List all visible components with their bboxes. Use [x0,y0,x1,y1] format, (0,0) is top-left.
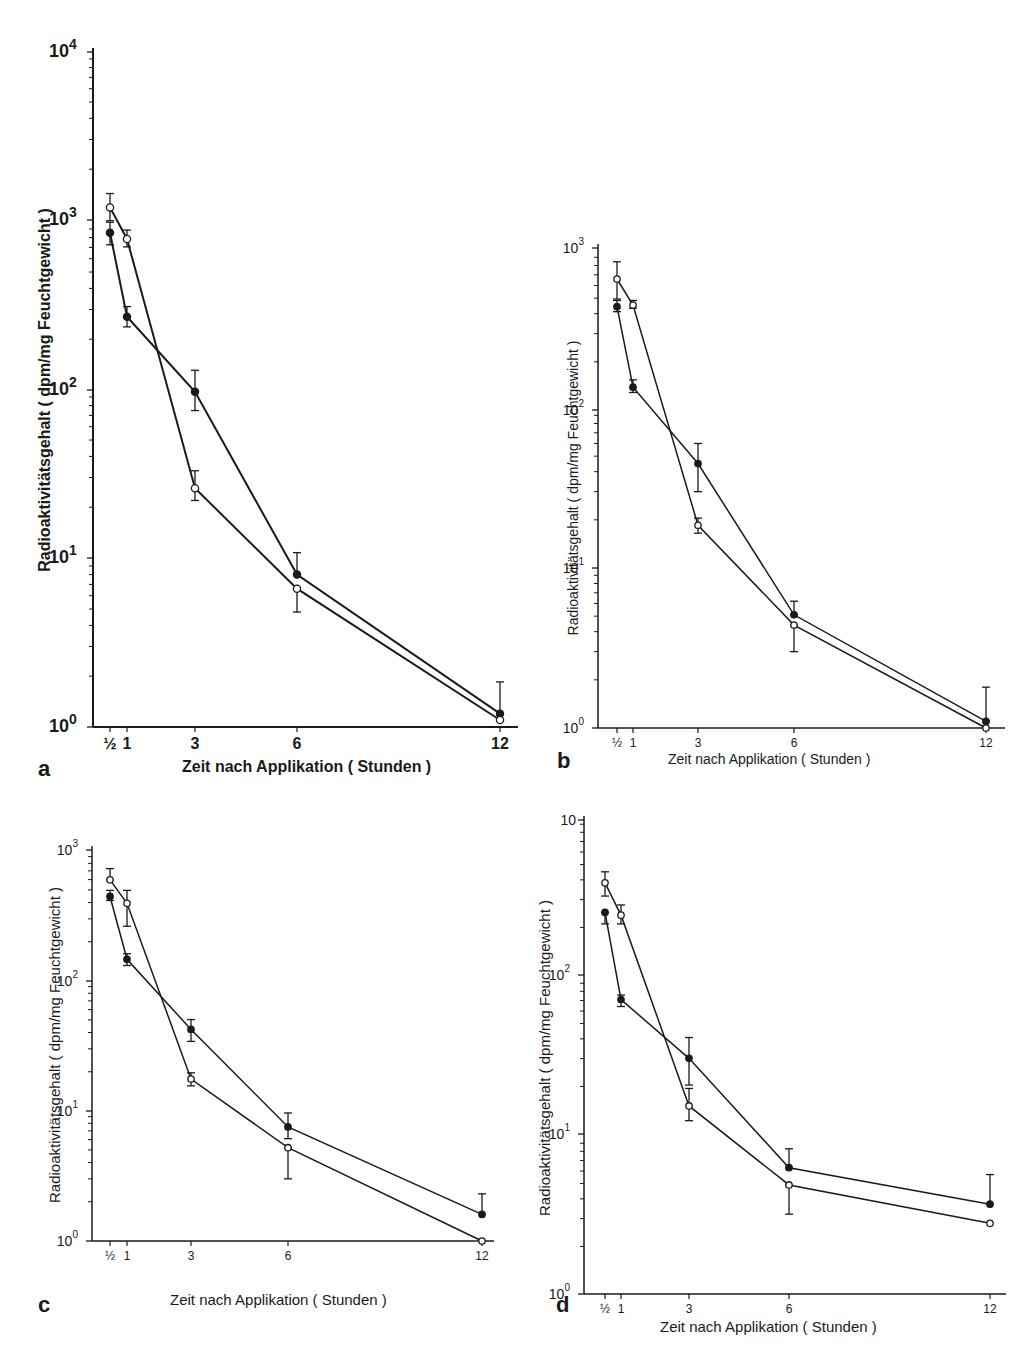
x-tick-label: 12 [979,736,993,750]
x-tick-label: 12 [983,1302,997,1316]
filled-circle-marker [188,1026,194,1032]
open-circle-marker [614,276,620,282]
y-tick-label: 103 [57,838,79,858]
x-tick-label: 6 [791,736,798,750]
filled-circle-marker [987,1201,993,1207]
open-circle-marker [124,900,130,906]
open-circle-marker [188,1076,194,1082]
y-axis-title: Radioaktivitätsgehalt ( dpm/mg Feuchtgew… [46,887,63,1203]
y-tick-label: 10 [560,812,576,828]
y-axis-title: Radioaktivitätsgehalt ( dpm/mg Feuchtgew… [565,341,581,636]
x-tick-label: 12 [475,1249,489,1263]
open-circle-marker [285,1144,291,1150]
series-line-filled [605,912,990,1204]
open-circle-marker [695,522,701,528]
series-line-open [617,279,986,728]
series-line-open [110,880,482,1241]
filled-circle-marker [285,1124,291,1130]
open-circle-marker [293,585,300,592]
open-circle-marker [686,1103,692,1109]
panel-letter-c: c [38,1292,50,1318]
y-tick-label: 100 [57,1229,79,1249]
filled-circle-marker [786,1165,792,1171]
y-tick-label: 100 [563,716,585,736]
x-tick-label: 1 [618,1302,625,1316]
filled-circle-marker [686,1055,692,1061]
panel-b: 100101102103½13612Zeit nach Applikation … [563,236,1005,767]
filled-circle-marker [695,460,701,466]
y-tick-label: 103 [563,236,585,256]
x-tick-label: 12 [491,735,509,752]
filled-circle-marker [479,1211,485,1217]
open-circle-marker [983,725,989,731]
open-circle-marker [987,1220,993,1226]
y-tick-label: 104 [49,36,77,61]
filled-circle-marker [124,956,130,962]
y-tick-label: 100 [49,711,77,736]
filled-circle-marker [602,909,608,915]
open-circle-marker [479,1238,485,1244]
open-circle-marker [630,302,636,308]
filled-circle-marker [293,571,300,578]
y-tick-label: 102 [49,374,77,399]
x-tick-label: ½ [600,1302,610,1316]
series-line-filled [110,896,482,1214]
series-line-open [110,207,500,720]
open-circle-marker [496,716,503,723]
panel-c: 100101102103½13612Zeit nach Applikation … [46,838,494,1308]
x-tick-label: ½ [612,736,622,750]
x-tick-label: 3 [191,735,200,752]
x-tick-label: 6 [285,1249,292,1263]
x-tick-label: 3 [686,1302,693,1316]
y-tick-label: 103 [49,204,77,229]
open-circle-marker [106,204,113,211]
filled-circle-marker [106,229,113,236]
panel-d: 10010110210½13612Zeit nach Applikation (… [536,812,1006,1335]
filled-circle-marker [630,384,636,390]
panel-letter-b: b [557,748,570,774]
x-axis-title: Zeit nach Applikation ( Stunden ) [182,758,431,775]
series-line-filled [617,307,986,722]
filled-circle-marker [983,718,989,724]
panel-a: 100101102103104½13612Zeit nach Applikati… [36,36,518,775]
filled-circle-marker [614,303,620,309]
x-tick-label: 1 [124,1249,131,1263]
filled-circle-marker [123,313,130,320]
panel-letter-a: a [38,756,50,782]
y-tick-label: 101 [49,542,77,567]
open-circle-marker [191,485,198,492]
series-line-open [605,883,990,1223]
x-axis-title: Zeit nach Applikation ( Stunden ) [170,1291,387,1308]
x-tick-label: 3 [188,1249,195,1263]
x-tick-label: ½ [103,735,116,752]
x-tick-label: 3 [695,736,702,750]
x-axis-title: Zeit nach Applikation ( Stunden ) [668,751,870,767]
x-tick-label: 1 [630,736,637,750]
y-axis-title: Radioaktivitätsgehalt ( dpm/mg Feuchtgew… [536,900,553,1216]
series-line-filled [110,233,500,714]
chart-canvas: 100101102103104½13612Zeit nach Applikati… [0,0,1036,1362]
y-axis-title: Radioaktivitätsgehalt ( dpm/mg Feuchtgew… [36,208,53,572]
x-tick-label: 6 [293,735,302,752]
filled-circle-marker [618,996,624,1002]
filled-circle-marker [191,388,198,395]
open-circle-marker [123,235,130,242]
x-tick-label: 6 [786,1302,793,1316]
panel-letter-d: d [556,1292,569,1318]
filled-circle-marker [791,612,797,618]
open-circle-marker [618,912,624,918]
open-circle-marker [107,877,113,883]
filled-circle-marker [107,893,113,899]
x-tick-label: ½ [105,1249,115,1263]
open-circle-marker [786,1182,792,1188]
x-axis-title: Zeit nach Applikation ( Stunden ) [660,1318,877,1335]
open-circle-marker [791,622,797,628]
x-tick-label: 1 [123,735,132,752]
open-circle-marker [602,880,608,886]
